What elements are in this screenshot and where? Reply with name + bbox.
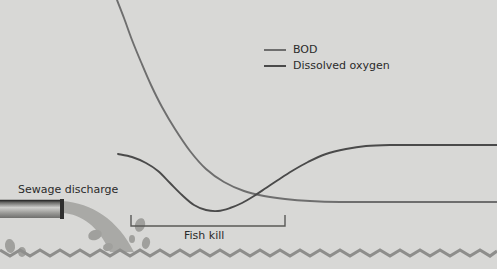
legend-item-dissolved-oxygen: Dissolved oxygen [264,58,404,74]
sewage-discharge-label: Sewage discharge [18,184,118,196]
fish-kill-label: Fish kill [184,230,224,242]
legend-item-bod: BOD [264,42,404,58]
legend-label-bod: BOD [293,44,317,56]
bod-curve [117,0,497,202]
legend-label-dissolved-oxygen: Dissolved oxygen [293,60,390,72]
chart-curves-layer [0,0,497,269]
water-quality-sag-curve-figure: BOD Dissolved oxygen Sewage discharge Fi… [0,0,497,269]
legend-swatch-bod [264,49,286,51]
fish-kill-bracket [131,215,285,226]
legend-swatch-dissolved-oxygen [264,65,286,67]
chart-legend: BOD Dissolved oxygen [264,42,404,74]
